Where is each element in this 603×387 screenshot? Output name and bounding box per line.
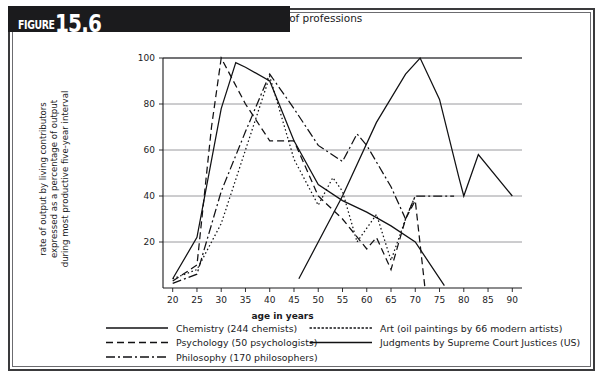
x-axis-label-text: age in years xyxy=(251,311,313,321)
x-tick-label-25: 25 xyxy=(191,295,202,305)
x-tick-label-65: 65 xyxy=(385,295,396,305)
x-tick-label-90: 90 xyxy=(507,295,519,305)
y-tick-label-80: 80 xyxy=(144,99,156,109)
x-tick-label-75: 75 xyxy=(434,295,445,305)
data-series-group xyxy=(173,58,513,288)
x-tick-label-35: 35 xyxy=(240,295,251,305)
series-line-1 xyxy=(173,58,425,288)
y-axis-ticks: 20406080100 xyxy=(138,53,163,247)
legend-label: Art (oil paintings by 66 modern artists) xyxy=(380,323,562,334)
y-axis-label-line-0: rate of output by living contributors xyxy=(38,102,48,256)
legend-label: Psychology (50 psychologists) xyxy=(176,337,317,348)
chart-plot-area: 202530354045505560657075808590 204060801… xyxy=(10,36,593,369)
x-tick-label-50: 50 xyxy=(313,295,325,305)
x-axis-ticks: 202530354045505560657075808590 xyxy=(167,288,518,305)
series-line-4 xyxy=(299,58,512,279)
legend-label: Chemistry (244 chemists) xyxy=(176,323,297,334)
line-chart: 202530354045505560657075808590 204060801… xyxy=(10,36,593,369)
x-tick-label-80: 80 xyxy=(458,295,470,305)
series-line-0 xyxy=(173,63,445,286)
x-tick-label-70: 70 xyxy=(410,295,422,305)
legend-label: Philosophy (170 philosophers) xyxy=(176,352,318,363)
figure-label: FIGURE 15.6 xyxy=(18,9,113,33)
chart-legend: Chemistry (244 chemists)Psychology (50 p… xyxy=(106,323,580,363)
x-tick-label-20: 20 xyxy=(167,295,179,305)
series-line-3 xyxy=(173,76,416,278)
figure-caption: Age and achievement in a variety of prof… xyxy=(108,12,362,24)
y-axis-label-line-2: during most productive five-year interva… xyxy=(60,91,70,268)
figure-container: FIGURE 15.6 Age and achievement in a var… xyxy=(0,0,603,387)
legend-label: Judgments by Supreme Court Justices (US) xyxy=(379,337,580,348)
x-tick-label-45: 45 xyxy=(288,295,299,305)
y-tick-label-100: 100 xyxy=(138,53,155,63)
x-tick-label-55: 55 xyxy=(337,295,348,305)
x-tick-label-60: 60 xyxy=(361,295,373,305)
y-tick-label-20: 20 xyxy=(144,237,156,247)
figure-number-label: 15.6 xyxy=(55,12,101,36)
figure-word-label: FIGURE xyxy=(18,18,55,31)
x-tick-label-30: 30 xyxy=(215,295,227,305)
y-axis-title: rate of output by living contributorsexp… xyxy=(38,91,70,268)
y-axis-label-line-1: expressed as a percentage of output xyxy=(49,99,59,258)
x-axis-title: age in years xyxy=(251,311,313,321)
y-tick-label-40: 40 xyxy=(144,191,156,201)
x-tick-label-40: 40 xyxy=(264,295,276,305)
x-tick-label-85: 85 xyxy=(482,295,493,305)
y-tick-label-60: 60 xyxy=(144,145,156,155)
